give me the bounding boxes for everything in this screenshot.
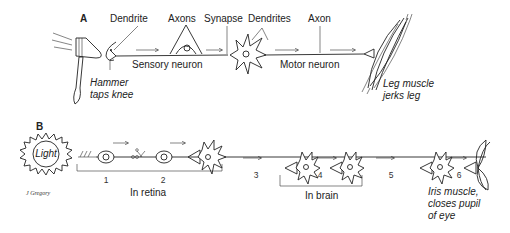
retina-cell-2	[156, 151, 172, 163]
retina-cell-1	[98, 151, 114, 163]
photoreceptor-ticks	[78, 151, 96, 157]
step-6-label: 6	[457, 170, 462, 180]
sensory-neuron	[116, 25, 228, 56]
sensory-neuron-label: Sensory neuron	[132, 59, 203, 70]
brain-label: In brain	[305, 190, 338, 201]
muscle-caption-line2: jerks leg	[381, 90, 421, 101]
step-5-label: 5	[389, 170, 394, 180]
dendrite-label: Dendrite	[110, 13, 148, 24]
artist-signature: J Gregory	[26, 190, 51, 196]
step-1-label: 1	[104, 175, 109, 185]
motor-neuron-label: Motor neuron	[280, 59, 339, 70]
sun-light-icon: Light	[20, 133, 72, 175]
step-3-label: 3	[254, 170, 259, 180]
step-2-label: 2	[161, 175, 166, 185]
iris-caption-line3: of eye	[428, 210, 456, 221]
muscle-caption-line1: Leg muscle	[383, 78, 435, 89]
hammer-caption-line1: Hammer	[90, 77, 129, 88]
step-4-label: 4	[318, 170, 323, 180]
hammer-motion-icon	[52, 33, 72, 50]
reflex-diagram: A Dendrite Axons Synapse Dendrites Axon	[0, 0, 510, 233]
panel-a: A Dendrite Axons Synapse Dendrites Axon	[52, 13, 435, 104]
dendrites-label: Dendrites	[248, 13, 291, 24]
iris-caption-line1: Iris muscle,	[428, 186, 479, 197]
axons-label: Axons	[168, 13, 196, 24]
iris-muscle-icon	[464, 140, 490, 190]
panel-a-label: A	[80, 13, 87, 24]
retina-label: In retina	[130, 187, 167, 198]
light-label: Light	[35, 148, 58, 159]
iris-caption-line2: closes pupil	[428, 198, 481, 209]
axon-label: Axon	[308, 13, 331, 24]
panel-b-label: B	[36, 121, 43, 132]
retina-bracket	[77, 164, 222, 171]
hammer-caption-line2: taps knee	[90, 89, 134, 100]
panel-b: B Light J Gregory	[20, 121, 490, 221]
synapse-label: Synapse	[204, 13, 243, 24]
knee-receptor-icon	[106, 42, 116, 70]
